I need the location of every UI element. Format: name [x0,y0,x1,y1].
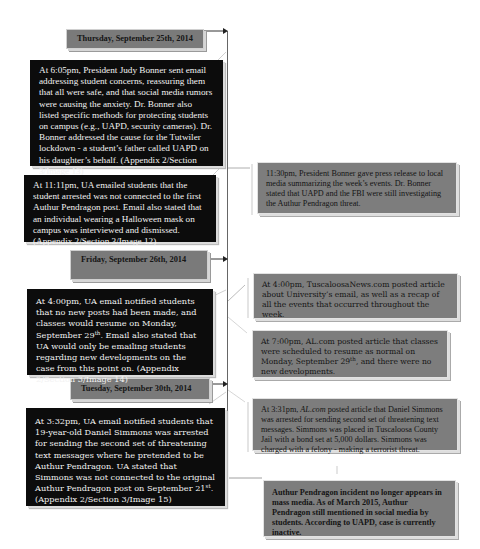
date-label: Thursday, September 25th, 2014 [77,34,193,43]
date-header-friday: Friday, September 26th, 2014 [70,250,208,280]
university-event-2: At 11:11pm, UA emailed students that the… [24,175,216,242]
source-name: AL.com [300,405,325,414]
media-event-3: At 7:00pm, AL.com posted article that cl… [252,330,448,378]
date-label: Friday, September 26th, 2014 [81,255,186,264]
university-event-3: At 4:00pm, UA email notified students th… [27,289,213,375]
university-event-1: At 6:05pm, President Judy Bonner sent em… [30,60,223,166]
event-text: At 3:32pm, UA email notified students th… [35,416,215,493]
event-text: 11:30pm, President Bonner gave press rel… [266,169,443,208]
date-header-thursday: Thursday, September 25th, 2014 [66,29,204,49]
media-event-4: At 3:31pm, AL.com posted article that Da… [252,398,458,451]
university-event-4: At 3:32pm, UA email notified students th… [26,408,225,506]
media-event-5-conclusion: Authur Pendragon incident no longer appe… [263,480,456,537]
event-text-prefix: At 3:31pm, [261,405,300,414]
event-text: At 6:05pm, President Judy Bonner sent em… [39,65,212,176]
event-text: Authur Pendragon incident no longer appe… [272,488,442,537]
event-text: At 4:00pm, TuscaloosaNews.com posted art… [262,280,445,319]
media-event-2: At 4:00pm, TuscaloosaNews.com posted art… [253,273,458,319]
media-event-1: 11:30pm, President Bonner gave press rel… [257,162,457,214]
event-text: At 11:11pm, UA emailed students that the… [33,180,202,246]
